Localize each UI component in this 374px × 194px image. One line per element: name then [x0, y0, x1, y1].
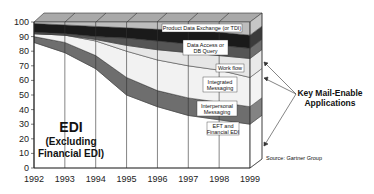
y-tick-label: 50: [19, 90, 29, 100]
y-tick-label: 0: [24, 163, 29, 173]
y-tick-label: 30: [19, 119, 29, 129]
y-tick-label: 60: [19, 75, 29, 85]
x-tick-label: 1999: [240, 174, 260, 184]
x-tick-label: 1998: [209, 174, 229, 184]
label-data-access-2: DB Query: [193, 48, 217, 54]
label-integrated-2: Messaging: [207, 85, 234, 91]
y-tick-label: 70: [19, 61, 29, 71]
y-tick-label: 100: [14, 17, 29, 27]
y-tick-label: 20: [19, 134, 29, 144]
label-interpersonal-1: Interpersonal: [201, 103, 233, 109]
x-tick-label: 1993: [55, 174, 75, 184]
source-note: Source: Gartner Group: [266, 155, 322, 161]
key-label-2: Applications: [304, 98, 355, 108]
y-tick-label: 90: [19, 32, 29, 42]
chart-top-3d-face: [34, 13, 262, 22]
y-tick-label: 80: [19, 46, 29, 56]
y-axis-ticks: 0102030405060708090100: [14, 17, 34, 173]
x-tick-label: 1994: [86, 174, 106, 184]
x-tick-label: 1995: [117, 174, 137, 184]
x-tick-label: 1992: [24, 174, 44, 184]
key-annotation: [264, 62, 296, 146]
y-tick-label: 40: [19, 105, 29, 115]
label-data-access-1: Data Access or: [187, 42, 224, 48]
x-tick-label: 1997: [178, 174, 198, 184]
label-product-data-exchange: Product Data Exchange (or TDI): [163, 25, 242, 31]
chart-side-3d-face: [250, 13, 262, 168]
edi-subtitle-2: Financial EDI): [38, 148, 104, 159]
x-tick-label: 1996: [147, 174, 167, 184]
label-work-flow: Work flow: [218, 65, 242, 71]
key-label-1: Key Mail-Enable: [297, 88, 362, 98]
label-integrated-1: Integrated: [208, 79, 233, 85]
edi-subtitle-1: (Excluding: [45, 136, 96, 147]
x-axis-ticks: 19921993199419951996199719981999: [24, 174, 260, 184]
y-tick-label: 10: [19, 148, 29, 158]
label-interpersonal-2: Messaging: [204, 109, 231, 115]
stacked-area-chart: 0102030405060708090100 19921993199419951…: [0, 0, 374, 194]
label-eft-2: Financial EDI: [207, 129, 240, 135]
edi-title: EDI: [59, 119, 82, 135]
